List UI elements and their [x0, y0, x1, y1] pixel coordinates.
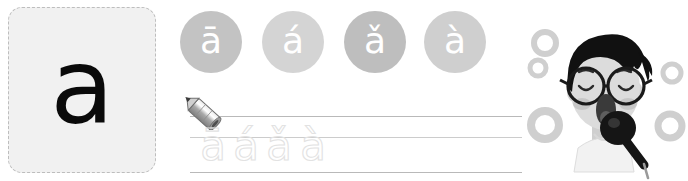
boy-singing-microphone-illustration — [520, 0, 688, 181]
tone-circle-second[interactable]: á — [262, 11, 324, 73]
trace-letter-first: ā — [196, 118, 230, 174]
tone-circle-third[interactable]: ǎ — [344, 11, 406, 73]
letter-card: a — [8, 7, 156, 173]
trace-letter-second: á — [229, 118, 263, 174]
guide-line-top — [190, 116, 522, 117]
tone-circle-first[interactable]: ā — [180, 11, 242, 73]
trace-letter-third: ǎ — [262, 118, 296, 174]
letter-card-glyph: a — [9, 8, 155, 172]
tone-circle-fourth[interactable]: à — [424, 11, 486, 73]
trace-letter-fourth: à — [296, 118, 330, 174]
